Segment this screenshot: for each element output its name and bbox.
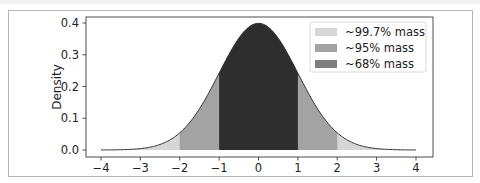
y-tick-label: 0.4 [61,16,79,30]
x-tick-label: 4 [412,161,419,175]
legend-swatch [315,28,337,36]
x-tick-label: 1 [294,161,301,175]
x-axis: −4−3−2−101234 [93,157,420,175]
x-tick-label: −1 [211,161,228,175]
y-tick-label: 0.0 [61,143,79,157]
chart: 0.00.10.20.30.4 Density −4−3−2−101234 ~9… [0,0,480,183]
x-tick-label: −4 [93,161,110,175]
x-tick-label: 3 [373,161,380,175]
x-tick-label: 0 [255,161,262,175]
legend-label: ~95% mass [345,41,414,55]
x-tick-label: −2 [171,161,188,175]
region-68 [219,23,298,150]
y-tick-label: 0.1 [61,111,79,125]
legend: ~99.7% mass ~95% mass ~68% mass [310,22,426,72]
x-tick-label: 2 [334,161,341,175]
x-ticks: −4−3−2−101234 [93,157,420,175]
legend-swatch [315,44,337,52]
y-axis-title: Density [50,64,64,110]
legend-label: ~99.7% mass [345,25,425,39]
y-tick-label: 0.3 [61,48,79,62]
y-axis: 0.00.10.20.30.4 Density [50,16,86,157]
legend-swatch [315,60,337,68]
legend-label: ~68% mass [345,57,414,71]
x-tick-label: −3 [132,161,149,175]
y-ticks: 0.00.10.20.30.4 [61,16,86,157]
